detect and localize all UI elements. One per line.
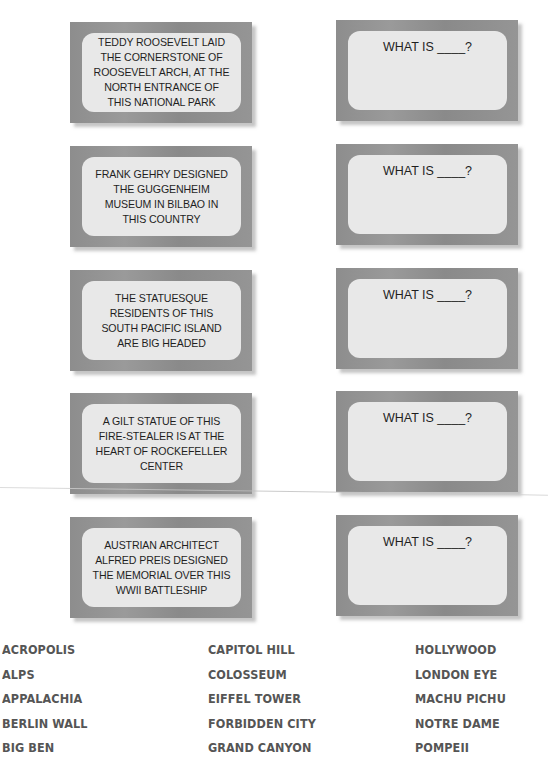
answer-card-2[interactable]: WHAT IS ____? <box>336 144 518 245</box>
word-bank-item: POMPEII <box>415 736 506 761</box>
clue-text: TEDDY ROOSEVELT LAID THE CORNERSTONE OF … <box>90 35 234 110</box>
word-bank-item: NOTRE DAME <box>415 712 506 737</box>
word-bank-item: GRAND CANYON <box>208 736 316 761</box>
word-bank-item: LONDON EYE <box>415 663 506 688</box>
clue-card-1: TEDDY ROOSEVELT LAID THE CORNERSTONE OF … <box>70 22 252 123</box>
clue-card-3: THE STATUESQUE RESIDENTS OF THIS SOUTH P… <box>70 270 252 371</box>
answer-prompt: WHAT IS ____? <box>383 288 472 302</box>
word-bank-item: ALPS <box>2 663 88 688</box>
word-bank-item: COLOSSEUM <box>208 663 316 688</box>
answer-card-face[interactable]: WHAT IS ____? <box>348 402 507 481</box>
clue-card-face: FRANK GEHRY DESIGNED THE GUGGENHEIM MUSE… <box>82 157 241 236</box>
answer-card-face[interactable]: WHAT IS ____? <box>348 31 507 110</box>
answer-card-3[interactable]: WHAT IS ____? <box>336 268 518 369</box>
clue-card-face: THE STATUESQUE RESIDENTS OF THIS SOUTH P… <box>82 281 241 360</box>
word-bank-item: APPALACHIA <box>2 687 88 712</box>
word-bank-item: BIG BEN <box>2 736 88 761</box>
clue-text: AUSTRIAN ARCHITECT ALFRED PREIS DESIGNED… <box>89 538 235 598</box>
answer-card-face[interactable]: WHAT IS ____? <box>348 526 507 605</box>
answer-card-5[interactable]: WHAT IS ____? <box>336 515 518 616</box>
clue-card-face: AUSTRIAN ARCHITECT ALFRED PREIS DESIGNED… <box>82 528 241 607</box>
clue-text: A GILT STATUE OF THIS FIRE-STEALER IS AT… <box>92 414 232 474</box>
word-bank-item: FORBIDDEN CITY <box>208 712 316 737</box>
word-bank-column-3: HOLLYWOOD LONDON EYE MACHU PICHU NOTRE D… <box>415 638 516 761</box>
clue-card-face: TEDDY ROOSEVELT LAID THE CORNERSTONE OF … <box>82 33 241 112</box>
answer-card-1[interactable]: WHAT IS ____? <box>336 20 518 121</box>
answer-card-face[interactable]: WHAT IS ____? <box>348 279 507 358</box>
clue-card-2: FRANK GEHRY DESIGNED THE GUGGENHEIM MUSE… <box>70 146 252 247</box>
word-bank-item: BERLIN WALL <box>2 712 88 737</box>
word-bank-item: HOLLYWOOD <box>415 638 506 663</box>
word-bank-item: EIFFEL TOWER <box>208 687 316 712</box>
clue-card-4: A GILT STATUE OF THIS FIRE-STEALER IS AT… <box>70 393 252 494</box>
word-bank-column-1: ACROPOLIS ALPS APPALACHIA BERLIN WALL BI… <box>2 638 97 761</box>
word-bank-item: MACHU PICHU <box>415 687 506 712</box>
answer-prompt: WHAT IS ____? <box>383 164 472 178</box>
answer-prompt: WHAT IS ____? <box>383 535 472 549</box>
word-bank-column-2: CAPITOL HILL COLOSSEUM EIFFEL TOWER FORB… <box>208 638 328 761</box>
clue-card-5: AUSTRIAN ARCHITECT ALFRED PREIS DESIGNED… <box>70 517 252 618</box>
clue-text: THE STATUESQUE RESIDENTS OF THIS SOUTH P… <box>97 291 225 351</box>
word-bank-item: ACROPOLIS <box>2 638 88 663</box>
word-bank-item: CAPITOL HILL <box>208 638 316 663</box>
clue-text: FRANK GEHRY DESIGNED THE GUGGENHEIM MUSE… <box>91 167 231 227</box>
answer-card-face[interactable]: WHAT IS ____? <box>348 155 507 234</box>
answer-prompt: WHAT IS ____? <box>383 40 472 54</box>
answer-prompt: WHAT IS ____? <box>383 411 472 425</box>
clue-card-face: A GILT STATUE OF THIS FIRE-STEALER IS AT… <box>82 404 241 483</box>
answer-card-4[interactable]: WHAT IS ____? <box>336 391 518 492</box>
